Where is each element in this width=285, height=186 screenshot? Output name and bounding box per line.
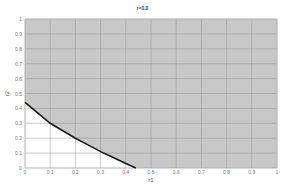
x-tick-label: 0.8 <box>223 169 230 175</box>
y-tick-label: 0 <box>19 165 22 171</box>
y-tick-label: 0.8 <box>15 46 22 52</box>
x-tick-label: 0.6 <box>173 169 180 175</box>
y-tick-label: 0.6 <box>15 76 22 82</box>
x-tick-label: 0.9 <box>248 169 255 175</box>
y-tick-label: 0.2 <box>15 135 22 141</box>
x-tick-label: 0.2 <box>72 169 79 175</box>
y-axis-label: r2 <box>4 90 10 96</box>
y-tick-label: 0.7 <box>15 61 22 67</box>
x-tick-label: 0.3 <box>97 169 104 175</box>
chart-plot: 00.10.20.30.40.50.60.70.80.9100.10.20.30… <box>0 0 285 186</box>
y-tick-label: 0.9 <box>15 31 22 37</box>
y-tick-label: 0.5 <box>15 91 22 97</box>
x-tick-label: 0.1 <box>47 169 54 175</box>
y-tick-label: 0.4 <box>15 105 22 111</box>
x-tick-label: 0.4 <box>122 169 129 175</box>
x-tick-label: 0.7 <box>198 169 205 175</box>
x-tick-label: 0 <box>24 169 27 175</box>
y-tick-label: 1 <box>19 16 22 22</box>
y-tick-label: 0.1 <box>15 150 22 156</box>
x-axis-label: r1 <box>148 177 154 183</box>
x-tick-label: 1 <box>276 169 279 175</box>
x-tick-label: 0.5 <box>148 169 155 175</box>
y-tick-label: 0.3 <box>15 120 22 126</box>
